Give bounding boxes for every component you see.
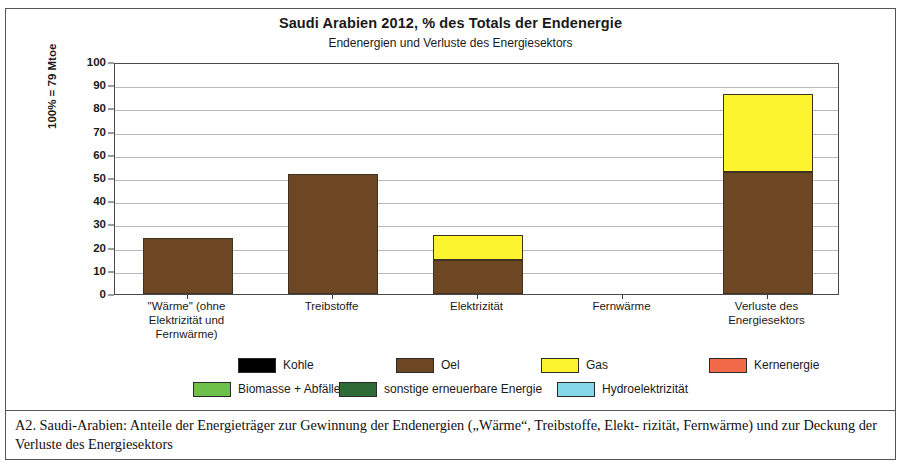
chart-title: Saudi Arabien 2012, % des Totals der End… — [6, 15, 895, 31]
y-axis-tick-label: 50 — [93, 173, 106, 185]
bar-column — [433, 62, 523, 294]
x-axis-label-line: "Wärme" (ohne — [112, 299, 262, 313]
chart-legend: KohleOelGasKernenergie Biomasse + Abfäll… — [6, 355, 895, 403]
x-axis-label-line: Energiesektors — [692, 313, 842, 327]
y-axis-tick-label: 0 — [100, 289, 106, 301]
chart-subtitle: Endenergien und Verluste des Energiesekt… — [6, 36, 895, 50]
legend-label: sonstige erneuerbare Energie — [384, 382, 542, 396]
legend-row-2: Biomasse + Abfällesonstige erneuerbare E… — [6, 379, 895, 403]
bar-column — [143, 62, 233, 294]
x-axis-label-line: Fernwärme — [547, 299, 697, 313]
x-axis-label-line: Elektrizität und — [112, 313, 262, 327]
bar-segment-oel — [288, 174, 378, 294]
x-axis-label-line: Fernwärme) — [112, 327, 262, 341]
bar-segment-oel — [143, 238, 233, 294]
legend-swatch-sonstige — [339, 382, 377, 397]
legend-label: Biomasse + Abfälle — [238, 382, 340, 396]
y-axis-tick-label: 60 — [93, 150, 106, 162]
legend-swatch-kohle — [238, 358, 276, 373]
legend-swatch-hydro — [557, 382, 595, 397]
legend-swatch-gas — [541, 358, 579, 373]
legend-item: Hydroelektrizität — [557, 379, 688, 399]
bar-segment-gas — [433, 235, 523, 261]
y-axis-title: 100% = 79 Mtoe — [46, 44, 58, 129]
y-axis: 0102030405060708090100 — [78, 57, 114, 301]
figure-caption: A2. Saudi-Arabien: Anteile der Energietr… — [6, 411, 895, 460]
bar-segment-oel — [723, 172, 813, 294]
y-axis-tick-label: 10 — [93, 266, 106, 278]
legend-label: Kohle — [283, 358, 314, 372]
bar-column — [723, 62, 813, 294]
legend-row-1: KohleOelGasKernenergie — [6, 355, 895, 379]
y-axis-tick-label: 100 — [87, 57, 106, 69]
legend-label: Kernenergie — [754, 358, 819, 372]
bar-segment-gas — [723, 94, 813, 171]
chart-panel: Saudi Arabien 2012, % des Totals der End… — [6, 9, 895, 411]
legend-label: Oel — [441, 358, 460, 372]
x-axis-label-line: Verluste des — [692, 299, 842, 313]
x-axis-label: Elektrizität — [402, 299, 552, 313]
x-axis-labels: "Wärme" (ohneElektrizität undFernwärme)T… — [114, 299, 839, 359]
legend-item: Kernenergie — [709, 355, 819, 375]
y-axis-tick-label: 80 — [93, 104, 106, 116]
plot-area — [114, 63, 839, 295]
legend-swatch-biomasse — [193, 382, 231, 397]
legend-item: Gas — [541, 355, 608, 375]
legend-label: Gas — [586, 358, 608, 372]
y-axis-tick-label: 30 — [93, 220, 106, 232]
bar-column — [288, 62, 378, 294]
y-axis-tick-label: 90 — [93, 80, 106, 92]
bar-column — [578, 62, 668, 294]
y-axis-tick-label: 40 — [93, 196, 106, 208]
legend-item: Oel — [396, 355, 460, 375]
legend-item: Kohle — [238, 355, 314, 375]
x-axis-label: Treibstoffe — [257, 299, 407, 313]
legend-swatch-kernenergie — [709, 358, 747, 373]
legend-swatch-oel — [396, 358, 434, 373]
legend-label: Hydroelektrizität — [602, 382, 688, 396]
bar-segment-oel — [433, 260, 523, 294]
legend-item: sonstige erneuerbare Energie — [339, 379, 542, 399]
legend-item: Biomasse + Abfälle — [193, 379, 340, 399]
x-axis-label-line: Treibstoffe — [257, 299, 407, 313]
x-axis-label: "Wärme" (ohneElektrizität undFernwärme) — [112, 299, 262, 341]
figure-container: Saudi Arabien 2012, % des Totals der End… — [5, 8, 896, 460]
caption-line-1: A2. Saudi-Arabien: Anteile der Energietr… — [15, 417, 639, 433]
y-axis-tick-label: 20 — [93, 243, 106, 255]
y-axis-tick-label: 70 — [93, 127, 106, 139]
x-axis-label: Fernwärme — [547, 299, 697, 313]
x-axis-label: Verluste desEnergiesektors — [692, 299, 842, 327]
x-axis-label-line: Elektrizität — [402, 299, 552, 313]
